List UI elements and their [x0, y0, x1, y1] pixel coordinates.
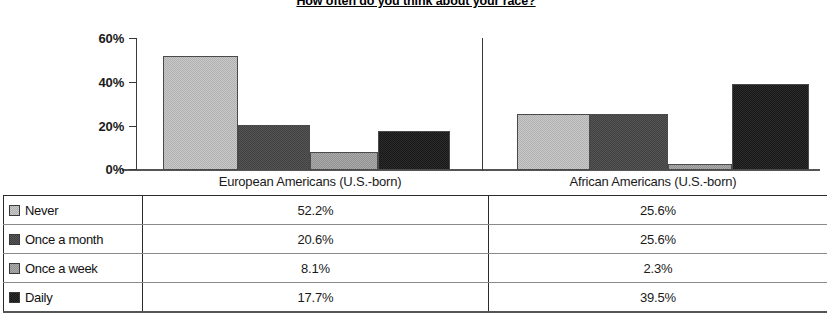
value-never-european: 52.2%: [143, 196, 489, 225]
bar-never-african: [517, 114, 590, 170]
value-once-a-month-african: 25.6%: [489, 225, 828, 254]
legend-cell-never: Never: [4, 196, 143, 225]
value-once-a-month-european: 20.6%: [143, 225, 489, 254]
legend-swatch-once-a-week-icon: [9, 263, 20, 274]
legend-swatch-daily-icon: [9, 292, 20, 303]
plot-area: 60% 40% 20% 0% European Americans (U.S.-…: [0, 0, 832, 196]
category-label-european: European Americans (U.S.-born): [140, 174, 480, 189]
legend-label-daily: Daily: [25, 290, 52, 305]
bar-once-a-week-african: [668, 164, 732, 170]
legend-cell-daily: Daily: [4, 283, 143, 313]
chart-figure: How often do you think about your race? …: [0, 0, 832, 323]
value-once-a-week-european: 8.1%: [143, 254, 489, 283]
value-once-a-week-african: 2.3%: [489, 254, 828, 283]
table-row: Once a month 20.6% 25.6%: [4, 225, 828, 254]
table-row: Once a week 8.1% 2.3%: [4, 254, 828, 283]
legend-label-once-a-week: Once a week: [25, 261, 98, 276]
legend-swatch-once-a-month-icon: [9, 234, 20, 245]
legend-label-never: Never: [25, 203, 58, 218]
category-label-african: African Americans (U.S.-born): [484, 174, 822, 189]
bars-layer: [0, 0, 832, 170]
bar-daily-european: [378, 131, 450, 170]
bar-once-a-month-african: [590, 114, 668, 170]
bar-once-a-week-european: [310, 152, 378, 170]
value-daily-european: 17.7%: [143, 283, 489, 313]
table-row: Never 52.2% 25.6%: [4, 196, 828, 225]
data-table: Never 52.2% 25.6% Once a month 20.6% 25.…: [3, 195, 827, 313]
legend-cell-once-a-week: Once a week: [4, 254, 143, 283]
value-daily-african: 39.5%: [489, 283, 828, 313]
legend-label-once-a-month: Once a month: [25, 232, 103, 247]
bar-once-a-month-european: [238, 125, 310, 170]
bar-never-european: [163, 56, 238, 170]
legend-cell-once-a-month: Once a month: [4, 225, 143, 254]
legend-swatch-never-icon: [9, 205, 20, 216]
bar-daily-african: [732, 84, 809, 170]
value-never-african: 25.6%: [489, 196, 828, 225]
table-row: Daily 17.7% 39.5%: [4, 283, 828, 313]
